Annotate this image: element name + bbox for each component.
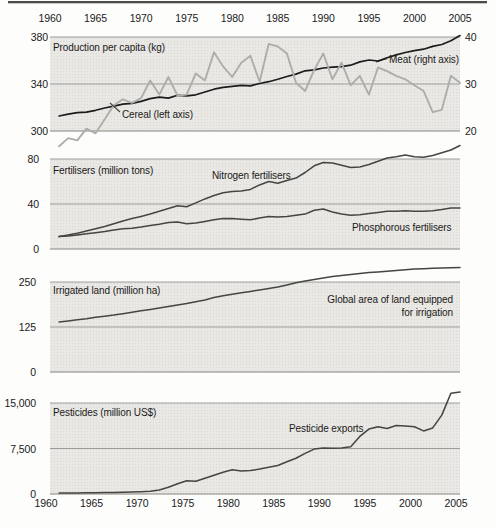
panel-1-right-ytick-40: 40 [465,31,476,43]
nitrogen-series-label: Nitrogen fertilisers [212,170,291,182]
x-tick-bottom-1970: 1970 [119,497,155,509]
panel-1-right-ytick-30: 30 [465,78,476,90]
phosphorous-series-label: Phosphorous fertilisers [352,222,451,234]
x-tick-bottom-1990: 1990 [301,497,337,509]
x-tick-top-1975: 1975 [169,12,205,24]
x-tick-top-1995: 1995 [351,12,387,24]
x-tick-top-1970: 1970 [123,12,159,24]
x-tick-top-1960: 1960 [32,12,68,24]
charts-canvas [0,0,495,528]
panel-3-ytick-125: 125 [19,321,36,333]
figure: 1960196519701975198019851990199520002005… [0,0,495,528]
panel-4-title: Pesticides (million US$) [53,407,156,419]
x-tick-bottom-2000: 2000 [392,497,428,509]
pesticide-series-label: Pesticide exports [289,423,363,435]
x-tick-bottom-1985: 1985 [256,497,292,509]
panel-1-ytick-300: 300 [31,125,48,137]
panel-3-title: Irrigated land (million ha) [53,285,160,297]
irrigation-series-label: Global area of land equipped for irrigat… [327,293,453,319]
x-tick-bottom-1975: 1975 [165,497,201,509]
x-tick-bottom-2005: 2005 [438,497,474,509]
panel-1-title: Production per capita (kg) [53,42,165,54]
x-tick-bottom-1995: 1995 [347,497,383,509]
x-tick-top-1980: 1980 [214,12,250,24]
panel-2-title: Fertilisers (million tons) [53,165,153,177]
x-tick-top-1965: 1965 [78,12,114,24]
panel-3-ytick-250: 250 [19,276,36,288]
panel-1-ytick-340: 340 [31,78,48,90]
x-tick-bottom-1980: 1980 [210,497,246,509]
panel-2-ytick-0: 0 [33,243,39,255]
x-tick-bottom-1965: 1965 [74,497,110,509]
x-tick-top-1985: 1985 [260,12,296,24]
x-tick-top-2000: 2000 [396,12,432,24]
cereal-series-label: Cereal (left axis) [122,109,193,121]
panel-2-ytick-40: 40 [28,198,39,210]
panel-1-ytick-380: 380 [31,31,48,43]
panel-4-ytick-7,500: 7,500 [10,443,36,455]
meat-series-label: Meat (right axis) [389,54,459,66]
panel-2-ytick-80: 80 [28,153,39,165]
panel-1-right-ytick-20: 20 [465,125,476,137]
panel-3-ytick-0: 0 [30,366,36,378]
x-tick-top-2005: 2005 [442,12,478,24]
x-tick-top-1990: 1990 [305,12,341,24]
panel-4-ytick-15,000: 15,000 [4,397,36,409]
panel-4-ytick-0: 0 [30,488,36,500]
